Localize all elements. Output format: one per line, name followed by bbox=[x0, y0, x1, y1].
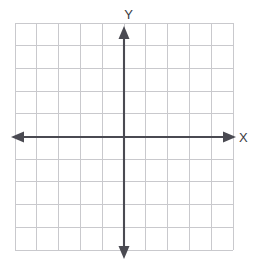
x-axis-arrow-right bbox=[223, 132, 236, 143]
x-axis-arrow-left bbox=[11, 132, 24, 143]
y-axis-arrow-up bbox=[119, 26, 130, 39]
y-axis-label: Y bbox=[0, 8, 257, 21]
y-axis bbox=[119, 26, 130, 259]
coordinate-plane-graphic bbox=[0, 0, 257, 266]
y-axis-arrow-down bbox=[119, 246, 130, 259]
coordinate-plane-figure: Y X bbox=[0, 0, 257, 266]
x-axis-label: X bbox=[239, 131, 248, 144]
